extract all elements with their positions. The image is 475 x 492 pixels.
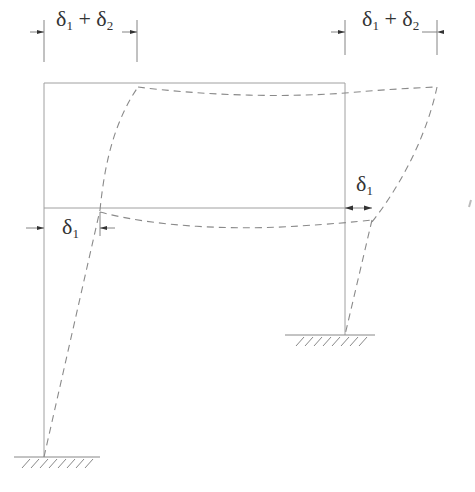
right-fixed-support [285,335,375,346]
original-frame [44,83,345,457]
arrow-icon [437,30,444,34]
frame-diagram [0,0,475,492]
dimension-lines [26,20,437,236]
deflected-right-column-lower [345,220,372,335]
deflected-top-beam [138,87,437,95]
deflected-right-column-upper [372,87,437,222]
label-mid-left-deflection: δ1 [62,216,79,240]
stray-mark [469,200,471,207]
deflected-left-column-upper [100,87,138,210]
label-top-right-deflection: δ1 + δ2 [362,8,419,32]
arrow-icon [130,30,137,34]
deflected-mid-beam [100,212,372,228]
arrow-icon [37,226,44,230]
arrow-icon [345,206,353,211]
arrow-icon [364,206,372,211]
arrow-icon [37,30,44,34]
arrow-icon [338,30,345,34]
label-top-left-deflection: δ1 + δ2 [56,8,113,32]
deflected-shape [44,87,437,457]
arrow-icon [100,226,107,230]
deflected-left-column-lower [44,210,100,457]
left-fixed-support [14,457,100,468]
dimension-arrowheads [37,30,444,230]
label-mid-right-deflection: δ1 [356,173,373,197]
